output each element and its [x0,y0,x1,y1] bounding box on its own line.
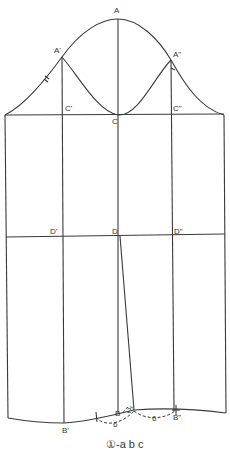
measure-6-right: 6 [152,414,157,423]
figure-caption: ①-a b c [106,438,144,450]
label-A-double-prime: A" [173,50,181,59]
label-B-double-prime: B" [173,413,181,422]
label-D-prime: D' [50,227,58,236]
label-D: D [112,227,118,236]
measure-6-left: 6 [113,420,118,429]
left-side-line [5,115,8,418]
label-B: B [115,409,120,418]
c-line [5,114,224,115]
right-side-line [224,115,226,413]
label-A-prime: A' [54,46,61,55]
left-guide-line [62,57,64,423]
measure-2: 2 [127,406,132,415]
label-A: A [114,6,120,15]
label-C-double-prime: C" [173,104,182,113]
slash-mark-2 [44,79,48,82]
sleeve-pattern-diagram: A A' A" C' C C" D' D D" B' B B" 2 6 6 ①-… [0,0,230,454]
tick-mark-left [96,412,97,422]
slant-line [120,236,134,410]
label-D-double-prime: D" [174,227,183,236]
inner-cap-curve [62,57,171,115]
label-B-prime: B' [62,426,69,435]
label-C: C [112,117,118,126]
label-C-prime: C' [65,104,73,113]
sleeve-cap-curve [5,19,224,115]
